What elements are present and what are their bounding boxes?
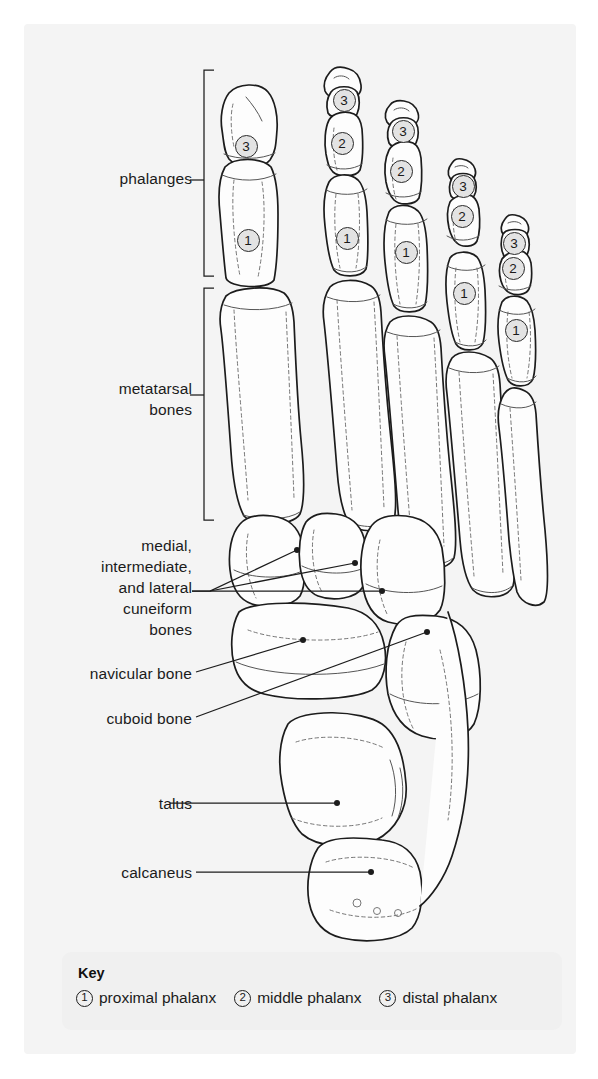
bone-marker-toe3-middle: 2 <box>390 160 413 183</box>
key-circle-3-icon: 3 <box>379 990 396 1007</box>
bone-marker-toe2-distal: 3 <box>333 89 356 112</box>
key-label-distal: distal phalanx <box>402 989 497 1007</box>
bone-marker-toe4-middle: 2 <box>451 205 474 228</box>
bone-marker-toe4-proximal: 1 <box>453 282 476 305</box>
foot-bones-figure: .bone { fill:#fdfdfd; stroke:#1c1c1c; st… <box>0 0 598 1079</box>
label-metatarsal-bones: metatarsal bones <box>72 378 192 420</box>
key-item-distal: 3 distal phalanx <box>379 989 497 1007</box>
bone-marker-toe4-distal: 3 <box>452 175 475 198</box>
key-title: Key <box>78 965 105 981</box>
key-item-middle: 2 middle phalanx <box>234 989 361 1007</box>
bone-marker-toe3-proximal: 1 <box>395 241 418 264</box>
key-label-proximal: proximal phalanx <box>99 989 216 1007</box>
key-items: 1 proximal phalanx 2 middle phalanx 3 di… <box>76 989 566 1007</box>
label-talus: talus <box>102 793 192 814</box>
label-navicular-bone: navicular bone <box>32 663 192 684</box>
key-label-middle: middle phalanx <box>257 989 361 1007</box>
bone-marker-toe5-proximal: 1 <box>505 319 528 342</box>
label-phalanges: phalanges <box>92 168 192 189</box>
bone-marker-toe1-distal: 3 <box>235 135 258 158</box>
bone-marker-toe2-proximal: 1 <box>336 227 359 250</box>
bone-marker-toe1-proximal: 1 <box>237 229 260 252</box>
bone-marker-toe2-middle: 2 <box>331 132 354 155</box>
key-circle-1-icon: 1 <box>76 990 93 1007</box>
bone-marker-toe5-middle: 2 <box>502 257 525 280</box>
label-cuboid-bone: cuboid bone <box>52 708 192 729</box>
phalanges-bracket <box>190 70 214 276</box>
key-circle-2-icon: 2 <box>234 990 251 1007</box>
label-calcaneus: calcaneus <box>72 862 192 883</box>
label-cuneiform-bones: medial, intermediate, and lateral cuneif… <box>46 535 192 640</box>
metatarsal-bracket <box>190 288 214 520</box>
bone-marker-toe5-distal: 3 <box>503 232 526 255</box>
toe1-bones <box>219 85 304 524</box>
key-item-proximal: 1 proximal phalanx <box>76 989 216 1007</box>
bone-marker-toe3-distal: 3 <box>392 120 415 143</box>
